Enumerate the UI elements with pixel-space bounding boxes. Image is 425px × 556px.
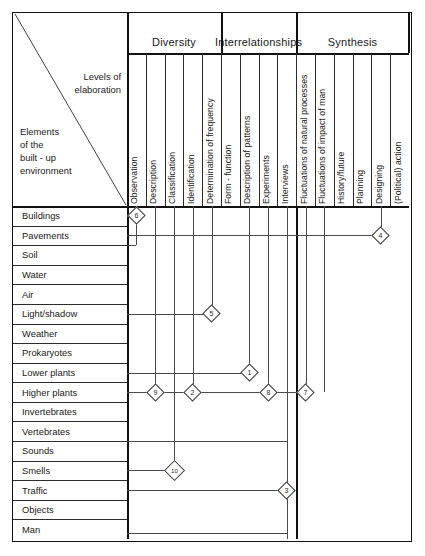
row-label-text-objects: Objects bbox=[22, 504, 54, 515]
corner-header-cell: Levels ofelaboration Elementsof thebuilt… bbox=[13, 13, 127, 206]
row-label-weather: Weather bbox=[13, 324, 127, 344]
marker-diamond-m6[interactable]: 6 bbox=[127, 207, 145, 225]
row-label-text-air: Air bbox=[22, 289, 33, 300]
matrix-diagram: Levels ofelaboration Elementsof thebuilt… bbox=[0, 0, 425, 556]
connector-run-m5 bbox=[127, 314, 212, 315]
group-divider bbox=[127, 13, 129, 53]
row-label-text-lower-plants: Lower plants bbox=[22, 367, 75, 378]
group-divider bbox=[296, 13, 298, 53]
synthesis-body-divider bbox=[296, 206, 298, 539]
row-label-text-soil: Soil bbox=[22, 249, 38, 260]
column-label-political-action: (Political) action bbox=[391, 190, 405, 204]
column-divider-head bbox=[221, 53, 222, 206]
connector-run-m1 bbox=[127, 373, 249, 374]
group-divider bbox=[221, 13, 223, 53]
elements-of-environment-label: Elementsof thebuilt - upenvironment bbox=[20, 125, 72, 177]
column-caption-cell-interviews: Interviews bbox=[277, 54, 296, 206]
group-divider bbox=[408, 13, 410, 53]
column-label-planning: Planning bbox=[353, 190, 367, 204]
column-divider-head bbox=[259, 53, 260, 206]
row-label-text-sounds: Sounds bbox=[22, 445, 54, 456]
connector-drop-m10 bbox=[174, 206, 175, 470]
connector-run-m3 bbox=[127, 490, 287, 491]
column-group-interrelationships: Interrelationships bbox=[221, 31, 296, 53]
row-divider bbox=[13, 441, 127, 442]
row-label-text-pavements: Pavements bbox=[22, 230, 69, 241]
marker-diamond-m1[interactable]: 1 bbox=[240, 363, 258, 381]
column-group-diversity: Diversity bbox=[127, 31, 221, 53]
column-caption-cell-observation: Observation bbox=[127, 54, 146, 206]
row-label-invertebrates: Invertebrates bbox=[13, 402, 127, 422]
marker-label-m3: 3 bbox=[280, 485, 293, 498]
marker-diamond-m4[interactable]: 4 bbox=[372, 226, 390, 244]
column-label-interviews: Interviews bbox=[278, 190, 292, 204]
column-divider-head bbox=[353, 53, 354, 206]
diagonal-divider-line bbox=[13, 13, 127, 206]
column-caption-cell-fluctuations-of-natural-processes: Fluctuations of natural processes bbox=[296, 54, 315, 206]
row-label-text-smells: Smells bbox=[22, 465, 50, 476]
row-label-text-buildings: Buildings bbox=[22, 210, 60, 221]
row-divider bbox=[13, 519, 127, 520]
row-divider bbox=[13, 343, 127, 344]
column-caption-cell-determination-of-frequency: Determination of frequency bbox=[202, 54, 221, 206]
levels-of-elaboration-label: Levels ofelaboration bbox=[75, 70, 121, 96]
column-caption-cell-fluctuations-of-impact-of-man: Fluctuations of impact of man bbox=[315, 54, 334, 206]
column-caption-cell-history-future: History/future bbox=[334, 54, 353, 206]
column-label-observation: Observation bbox=[127, 190, 141, 204]
row-label-smells: Smells bbox=[13, 461, 127, 481]
row-label-text-traffic: Traffic bbox=[22, 485, 48, 496]
marker-label-m4: 4 bbox=[374, 230, 387, 243]
connector-tail-man bbox=[127, 533, 287, 534]
connector-drop-m2 bbox=[193, 206, 194, 392]
column-caption-cell-form-function: Form - function bbox=[221, 54, 240, 206]
marker-label-m10: 10 bbox=[167, 464, 182, 479]
marker-label-m9: 9 bbox=[149, 387, 162, 400]
matrix-frame: Levels ofelaboration Elementsof thebuilt… bbox=[12, 12, 412, 542]
row-divider bbox=[13, 402, 127, 403]
column-caption-cell-designing: Designing bbox=[371, 54, 390, 206]
column-caption-cell-description-of-patterns: Description of patterns bbox=[240, 54, 259, 206]
marker-diamond-m5[interactable]: 5 bbox=[202, 305, 220, 323]
column-divider-head bbox=[165, 53, 166, 206]
row-label-text-light-shadow: Light/shadow bbox=[22, 308, 77, 319]
row-label-text-prokaryotes: Prokaryotes bbox=[22, 347, 72, 358]
row-label-sounds: Sounds bbox=[13, 441, 127, 461]
row-label-pavements: Pavements bbox=[13, 226, 127, 246]
column-label-identification: Identification bbox=[184, 190, 198, 204]
row-label-text-water: Water bbox=[22, 269, 47, 280]
row-label-higher-plants: Higher plants bbox=[13, 382, 127, 402]
connector-tail-vertebrates bbox=[127, 441, 287, 442]
row-divider bbox=[13, 500, 127, 501]
row-divider bbox=[13, 304, 127, 305]
connector-drop-m5 bbox=[212, 206, 213, 314]
row-divider bbox=[13, 363, 127, 364]
column-group-synthesis: Synthesis bbox=[296, 31, 409, 53]
marker-label-m2: 2 bbox=[186, 387, 199, 400]
marker-diamond-m9[interactable]: 9 bbox=[146, 383, 164, 401]
row-label-traffic: Traffic bbox=[13, 480, 127, 500]
marker-diamond-m8[interactable]: 8 bbox=[259, 383, 277, 401]
column-caption-cell-planning: Planning bbox=[353, 54, 372, 206]
marker-diamond-m7[interactable]: 7 bbox=[296, 383, 314, 401]
column-divider-head bbox=[240, 53, 241, 206]
column-caption-cell-experiments: Experiments bbox=[259, 54, 278, 206]
row-label-light-shadow: Light/shadow bbox=[13, 304, 127, 324]
column-divider-head bbox=[146, 53, 147, 206]
row-label-text-vertebrates: Vertebrates bbox=[22, 426, 70, 437]
marker-label-m8: 8 bbox=[262, 387, 275, 400]
column-caption-cell-classification: Classification bbox=[165, 54, 184, 206]
row-label-objects: Objects bbox=[13, 500, 127, 520]
row-label-lower-plants: Lower plants bbox=[13, 363, 127, 383]
row-divider bbox=[13, 265, 127, 266]
marker-label-m7: 7 bbox=[299, 387, 312, 400]
column-label-history-future: History/future bbox=[334, 190, 348, 204]
row-label-column-divider bbox=[127, 13, 129, 539]
marker-diamond-m10[interactable]: 10 bbox=[163, 460, 184, 481]
marker-diamond-m2[interactable]: 2 bbox=[184, 383, 202, 401]
connector-drop-m1 bbox=[249, 206, 250, 373]
column-divider-head bbox=[390, 53, 391, 206]
row-divider bbox=[13, 421, 127, 422]
marker-diamond-m3[interactable]: 3 bbox=[278, 481, 296, 499]
column-divider-head bbox=[277, 53, 278, 206]
column-label-determination-of-frequency: Determination of frequency bbox=[203, 190, 217, 204]
